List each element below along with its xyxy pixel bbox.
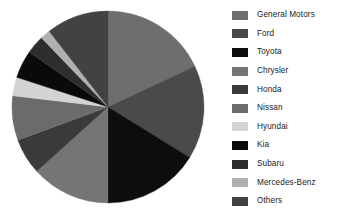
legend-item[interactable]: Hyundai bbox=[232, 118, 341, 137]
legend-item[interactable]: General Motors bbox=[232, 6, 341, 25]
legend-color-swatch bbox=[232, 160, 248, 169]
legend-item-label: Honda bbox=[257, 86, 282, 94]
legend-item[interactable]: Subaru bbox=[232, 155, 341, 174]
legend-color-swatch bbox=[232, 48, 248, 57]
legend-item[interactable]: Ford bbox=[232, 25, 341, 44]
legend-color-swatch bbox=[232, 122, 248, 131]
legend-item-label: Kia bbox=[257, 141, 269, 149]
legend-color-swatch bbox=[232, 85, 248, 94]
legend-item-label: Nissan bbox=[257, 104, 283, 112]
legend-item-label: Hyundai bbox=[257, 123, 288, 131]
legend-item-label: Subaru bbox=[257, 160, 284, 168]
legend-item-label: Ford bbox=[257, 30, 274, 38]
legend-color-swatch bbox=[232, 178, 248, 187]
legend-item[interactable]: Mercedes-Benz bbox=[232, 173, 341, 192]
chart-legend: General MotorsFordToyotaChryslerHondaNis… bbox=[232, 6, 341, 216]
pie-slice-group bbox=[12, 11, 204, 203]
legend-item[interactable]: Chrysler bbox=[232, 62, 341, 81]
legend-item[interactable]: Others bbox=[232, 192, 341, 211]
legend-item[interactable]: Honda bbox=[232, 80, 341, 99]
legend-item[interactable]: Nissan bbox=[232, 99, 341, 118]
legend-color-swatch bbox=[232, 197, 248, 206]
legend-color-swatch bbox=[232, 29, 248, 38]
legend-item-label: Chrysler bbox=[257, 67, 288, 75]
legend-item[interactable]: Toyota bbox=[232, 43, 341, 62]
legend-color-swatch bbox=[232, 141, 248, 150]
legend-color-swatch bbox=[232, 104, 248, 113]
legend-color-swatch bbox=[232, 67, 248, 76]
legend-item-label: Mercedes-Benz bbox=[257, 179, 316, 187]
pie-chart-plot-area bbox=[11, 10, 205, 204]
legend-item-label: Others bbox=[257, 197, 282, 205]
pie-chart-figure: General MotorsFordToyotaChryslerHondaNis… bbox=[0, 0, 341, 221]
legend-item[interactable]: Kia bbox=[232, 136, 341, 155]
legend-color-swatch bbox=[232, 11, 248, 20]
pie-svg bbox=[11, 10, 205, 204]
legend-item-label: General Motors bbox=[257, 11, 315, 19]
legend-item-label: Toyota bbox=[257, 48, 282, 56]
